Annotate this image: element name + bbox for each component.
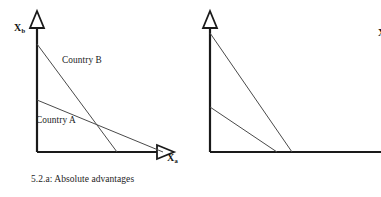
y-axis-label-subscript: b xyxy=(22,27,26,34)
panel-relative-advantages: Xb Xa Country A Country B 5.2.b: Relativ… xyxy=(190,0,381,197)
y-axis-arrowhead-icon xyxy=(30,11,44,28)
plot-area-relative-advantages xyxy=(190,0,381,197)
x-axis-label-subscript: a xyxy=(175,157,178,164)
y-axis-label-text: X xyxy=(14,22,21,33)
x-axis-label-absolute: Xa xyxy=(167,152,178,163)
series-label-country-a-absolute: Country A xyxy=(36,115,76,125)
y-axis-label-absolute: Xb xyxy=(14,22,25,33)
frontier-line-country-b xyxy=(210,107,277,152)
caption-absolute-advantages: 5.2.a: Absolute advantages xyxy=(31,174,134,184)
series-label-country-b-absolute: Country B xyxy=(62,55,102,65)
plot-area-absolute-advantages xyxy=(0,0,190,197)
panel-absolute-advantages: Xb Xa Country B Country A 5.2.a: Absolut… xyxy=(0,0,190,197)
frontier-line-country-a xyxy=(37,100,163,152)
x-axis-label-text: X xyxy=(167,152,174,163)
figure-container: Xb Xa Country B Country A 5.2.a: Absolut… xyxy=(0,0,381,197)
y-axis-arrowhead-icon xyxy=(203,11,217,28)
